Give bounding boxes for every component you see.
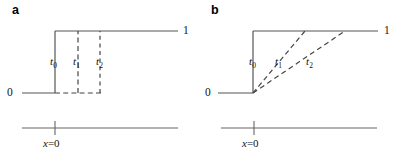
panel-a-x-axis-label: x=0 bbox=[43, 138, 60, 149]
panel-b: b 0 1 t0 t1 t2 x=0 bbox=[199, 0, 398, 159]
panel-a-label-t2-sub: 2 bbox=[99, 61, 103, 70]
panel-a-value-low: 0 bbox=[7, 87, 13, 99]
panel-a-label-t2: t2 bbox=[96, 56, 103, 67]
panel-b-label-t1-sub: 1 bbox=[278, 61, 282, 70]
panel-b-label-t2: t2 bbox=[306, 56, 313, 67]
panel-b-label-t1: t1 bbox=[275, 56, 282, 67]
panel-b-front-t2 bbox=[253, 31, 345, 93]
panel-a-label-t1-sub: 1 bbox=[76, 61, 80, 70]
panel-b-x-axis-label-eq: =0 bbox=[247, 137, 259, 149]
panel-a-label-t0-sub: 0 bbox=[53, 61, 57, 70]
figure-root: a 0 1 t0 t1 t2 x=0 b bbox=[0, 0, 398, 159]
panel-b-value-high: 1 bbox=[384, 25, 390, 37]
panel-b-label-t2-sub: 2 bbox=[309, 61, 313, 70]
panel-b-x-axis-label: x=0 bbox=[242, 138, 259, 149]
panel-a-x-axis-label-eq: =0 bbox=[48, 137, 60, 149]
panel-a-label-t1: t1 bbox=[73, 56, 80, 67]
panel-a: a 0 1 t0 t1 t2 x=0 bbox=[0, 0, 199, 159]
panel-b-label-t0: t0 bbox=[249, 56, 256, 67]
panel-b-label-t0-sub: 0 bbox=[252, 61, 256, 70]
panel-a-label-t0: t0 bbox=[50, 56, 57, 67]
panel-b-value-low: 0 bbox=[205, 87, 211, 99]
panel-a-value-high: 1 bbox=[183, 25, 189, 37]
panel-a-plot bbox=[0, 0, 199, 159]
panel-b-plot bbox=[199, 0, 398, 159]
